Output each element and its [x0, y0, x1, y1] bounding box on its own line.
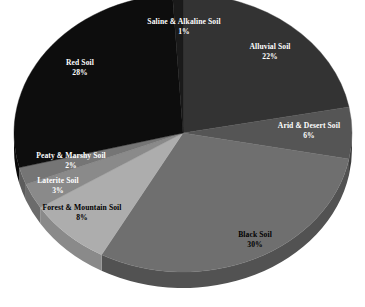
pie-top-surface [14, 0, 352, 272]
pie-chart-figure: Alluvial Soil22%Arid & Desert Soil6%Blac… [0, 0, 365, 307]
pie-chart-svg [0, 0, 365, 307]
